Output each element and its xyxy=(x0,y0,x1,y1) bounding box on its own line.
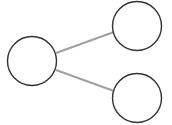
tree-diagram xyxy=(0,0,172,125)
node-root xyxy=(8,37,57,86)
edge-root-to-child-bottom xyxy=(56,70,114,91)
edges xyxy=(56,32,114,91)
nodes xyxy=(8,2,162,123)
node-child-top xyxy=(113,2,162,51)
node-child-bottom xyxy=(113,74,162,123)
edge-root-to-child-top xyxy=(56,32,114,53)
